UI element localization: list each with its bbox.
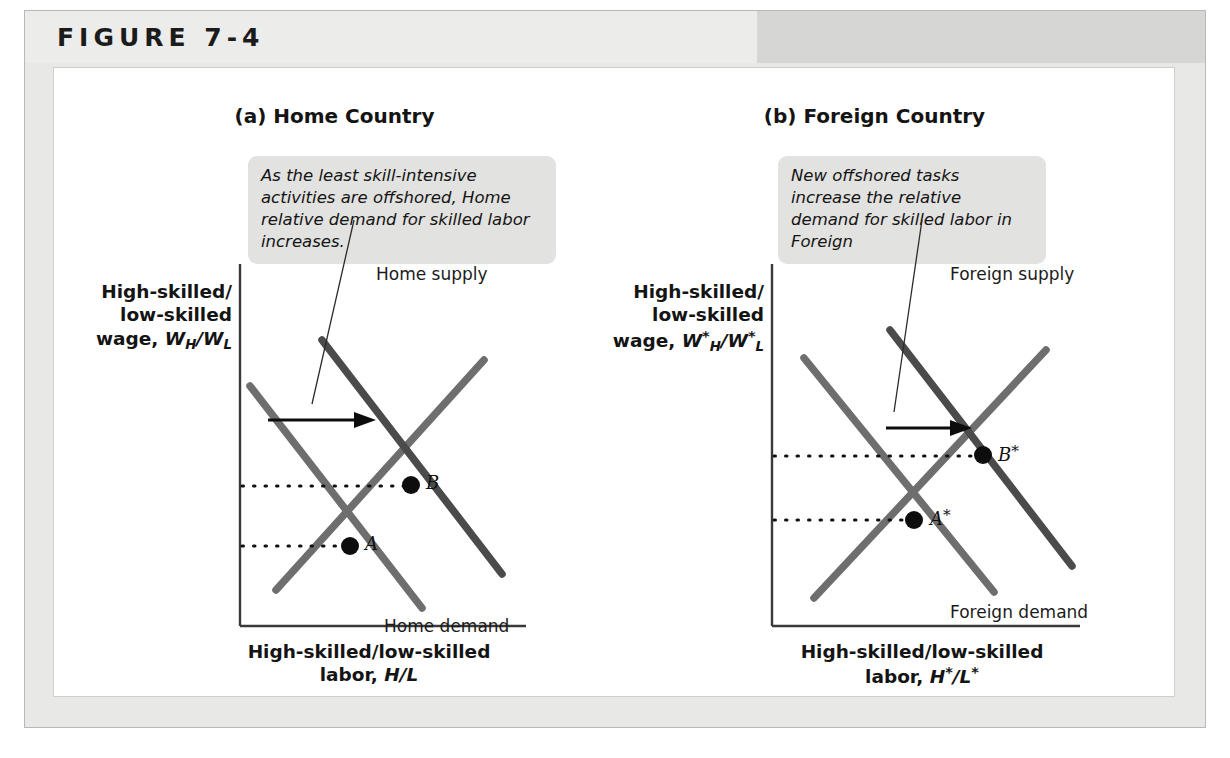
- supply-label-foreign: Foreign supply: [950, 264, 1074, 284]
- panel-foreign: (b) Foreign Country New offshored tasks …: [594, 68, 1155, 698]
- point-label-a-foreign: A*: [930, 506, 951, 529]
- figure-frame: FIGURE 7-4 (a) Home Country As the least…: [24, 10, 1206, 728]
- demand-label-foreign: Foreign demand: [950, 602, 1088, 622]
- demand-curve-foreign-original: [804, 358, 994, 592]
- equilibrium-point-a-home: [341, 537, 359, 555]
- equilibrium-point-b-foreign: [974, 446, 992, 464]
- point-label-b-home: B: [426, 472, 439, 493]
- figure-canvas: (a) Home Country As the least skill-inte…: [53, 67, 1175, 697]
- point-label-b-foreign: B*: [998, 442, 1019, 465]
- equilibrium-point-b-home: [402, 476, 420, 494]
- plot-home: [54, 68, 615, 698]
- panel-home: (a) Home Country As the least skill-inte…: [54, 68, 615, 698]
- demand-label-home: Home demand: [384, 616, 509, 636]
- equilibrium-point-a-foreign: [905, 511, 923, 529]
- supply-label-home: Home supply: [376, 264, 488, 284]
- figure-number: FIGURE 7-4: [57, 23, 264, 52]
- point-label-a-home: A: [365, 533, 378, 554]
- callout-leader-line-foreign: [894, 220, 922, 412]
- shift-arrow-head-home: [354, 412, 376, 428]
